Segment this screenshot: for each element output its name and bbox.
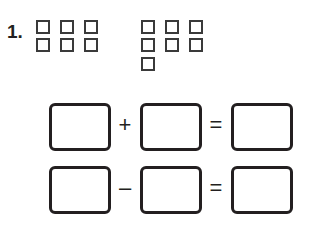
square-icon (84, 20, 98, 34)
square-icon (36, 20, 50, 34)
square-icon (141, 38, 155, 52)
equals-sign: = (206, 177, 226, 199)
square-icon (36, 38, 50, 52)
square-icon (141, 57, 155, 71)
answer-box-subtrahend[interactable] (140, 166, 202, 214)
answer-box-minuend[interactable] (49, 166, 111, 214)
square-icon (60, 38, 74, 52)
minus-sign: – (115, 177, 135, 199)
square-icon (189, 38, 203, 52)
plus-sign: + (115, 114, 135, 136)
answer-box-sum[interactable] (231, 103, 293, 151)
square-icon (60, 20, 74, 34)
square-icon (141, 20, 155, 34)
answer-box-addend-1[interactable] (49, 103, 111, 151)
problem-number: 1. (7, 21, 23, 43)
equals-sign: = (206, 114, 226, 136)
square-icon (84, 38, 98, 52)
square-icon (165, 20, 179, 34)
answer-box-difference[interactable] (231, 166, 293, 214)
answer-box-addend-2[interactable] (140, 103, 202, 151)
square-icon (189, 20, 203, 34)
square-icon (165, 38, 179, 52)
